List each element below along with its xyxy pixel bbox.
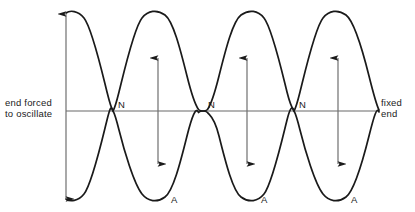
fixed-end-label-line2: end	[381, 108, 397, 119]
fixed-end-label-line1: fixed	[381, 97, 402, 108]
wave-envelope-upper	[66, 11, 379, 111]
driven-end-label-line2: to oscillate	[5, 108, 52, 119]
fixed-end-label: fixedend	[381, 97, 402, 119]
node-label-2: N	[208, 99, 215, 110]
antinode-label-1: A	[171, 194, 178, 205]
antinode-label-2: A	[261, 194, 268, 205]
wave-envelope-lower	[66, 108, 379, 201]
antinode-label-3: A	[351, 194, 358, 205]
standing-wave-figure: end forcedto oscillate fixedend N N N A …	[0, 0, 415, 212]
driven-end-label-line1: end forced	[5, 97, 52, 108]
driven-end-label: end forcedto oscillate	[5, 97, 52, 119]
node-label-1: N	[118, 99, 125, 110]
node-label-3: N	[299, 99, 306, 110]
